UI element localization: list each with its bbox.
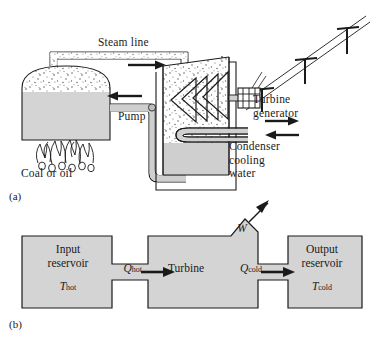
output-temperature-subscript: cold xyxy=(318,283,332,292)
thermodynamics-power-plant-figure: Steam line Pump Coal or oil Turbine gene… xyxy=(0,0,376,341)
q-cold-subscript: cold xyxy=(248,265,262,274)
cooling-water-outlet-arrow xyxy=(265,131,299,140)
output-reservoir-label-line1: Output xyxy=(282,243,362,257)
input-reservoir-label: Input reservoir xyxy=(28,243,108,271)
input-temperature-label: Thot xyxy=(28,280,108,294)
condenser-label-line1: Condenser xyxy=(229,140,280,154)
boiler xyxy=(20,64,114,140)
q-cold-label: Qcold xyxy=(220,262,262,276)
q-cold-symbol: Q xyxy=(240,262,248,274)
condenser-label-line3: water xyxy=(229,167,280,181)
coal-or-oil-label: Coal or oil xyxy=(21,167,72,181)
q-hot-subscript: hot xyxy=(132,265,142,274)
panel-b-caption: (b) xyxy=(9,318,22,331)
turbine-generator-label: Turbine generator xyxy=(253,93,298,120)
condenser-cooling-water-label: Condenser cooling water xyxy=(229,140,280,181)
input-temperature-subscript: hot xyxy=(66,283,76,292)
output-temperature-label: Tcold xyxy=(282,280,362,294)
output-reservoir-label: Output reservoir xyxy=(282,243,362,271)
work-symbol: W xyxy=(237,222,247,234)
output-reservoir-label-line2: reservoir xyxy=(282,257,362,271)
transmission-tower xyxy=(337,27,359,54)
feedwater-flow-arrow xyxy=(107,92,142,101)
turbine-block-label: Turbine xyxy=(148,262,224,276)
q-hot-symbol: Q xyxy=(123,262,131,274)
input-reservoir-label-line1: Input xyxy=(28,243,108,257)
steam-line-label: Steam line xyxy=(98,36,149,50)
condenser-label-line2: cooling xyxy=(229,154,280,168)
turbine-generator-label-line2: generator xyxy=(253,107,298,121)
steam-flow-arrow xyxy=(128,61,166,70)
pump-label: Pump xyxy=(118,110,146,124)
work-label: W xyxy=(232,222,252,236)
panel-a-caption: (a) xyxy=(9,190,21,203)
q-hot-label: Qhot xyxy=(104,262,142,276)
turbine-generator-label-line1: Turbine xyxy=(253,93,298,107)
input-reservoir-label-line2: reservoir xyxy=(28,257,108,271)
work-output-arrow xyxy=(249,200,269,222)
